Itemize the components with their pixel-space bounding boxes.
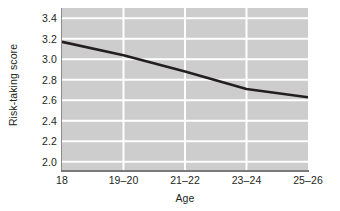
y-tick-label: 3.0 bbox=[42, 53, 57, 65]
y-axis-title: Risk-taking score bbox=[0, 0, 26, 170]
chart-figure: Risk-taking score 3.43.23.02.82.62.42.22… bbox=[0, 0, 340, 211]
y-axis-tick-labels: 3.43.23.02.82.62.42.22.0 bbox=[26, 8, 62, 170]
y-tick-label: 2.8 bbox=[42, 74, 57, 86]
x-tick-label: 18 bbox=[56, 174, 68, 186]
x-axis-line bbox=[61, 170, 309, 172]
y-tick-label: 2.4 bbox=[42, 115, 57, 127]
y-axis-title-text: Risk-taking score bbox=[7, 44, 19, 126]
x-tick-label: 19–20 bbox=[109, 174, 139, 186]
x-axis-title: Age bbox=[62, 192, 308, 204]
plot-svg bbox=[62, 8, 308, 170]
x-tick-label: 25–26 bbox=[293, 174, 323, 186]
y-tick-label: 2.6 bbox=[42, 94, 57, 106]
x-tick-label: 23–24 bbox=[232, 174, 262, 186]
x-tick-label: 21–22 bbox=[170, 174, 200, 186]
y-tick-label: 3.4 bbox=[42, 12, 57, 24]
plot-area bbox=[62, 8, 308, 170]
y-tick-label: 2.2 bbox=[42, 135, 57, 147]
vertical-gridlines bbox=[124, 8, 247, 170]
x-axis-tick-labels: 1819–2021–2223–2425–26 bbox=[62, 174, 308, 190]
y-tick-label: 2.0 bbox=[42, 156, 57, 168]
y-tick-label: 3.2 bbox=[42, 33, 57, 45]
